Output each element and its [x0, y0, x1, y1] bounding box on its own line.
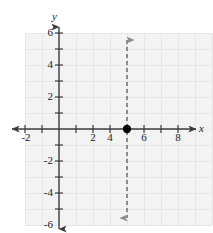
- x-axis-label: x: [199, 122, 204, 134]
- y-tick-label--4: -4: [34, 186, 53, 198]
- y-tick-label--2: -2: [34, 154, 53, 166]
- solid-point-5-0: [123, 125, 131, 133]
- y-axis-label: y: [52, 10, 57, 22]
- y-tick-label-2: 2: [39, 90, 53, 102]
- y-tick-label-4: 4: [39, 58, 53, 70]
- x-tick-label--2: -2: [18, 131, 34, 143]
- x-tick-label-8: 8: [170, 131, 186, 143]
- x-tick-label-2: 2: [85, 131, 101, 143]
- x-tick-label-6: 6: [136, 131, 152, 143]
- plot-canvas: [0, 0, 213, 233]
- y-tick-label-6: 6: [39, 26, 53, 38]
- y-tick-label--6: -6: [34, 218, 53, 230]
- x-tick-label-4: 4: [102, 131, 118, 143]
- coordinate-plane-figure: -2 2 4 6 8 6 4 2 -2 -4 -6 x y: [0, 0, 213, 233]
